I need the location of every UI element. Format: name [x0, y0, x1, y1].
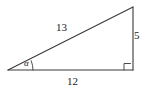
right-angle-icon — [124, 64, 131, 71]
opposite-side-label: 5 — [134, 30, 140, 41]
angle-alpha-label: α — [24, 59, 29, 68]
angle-arc-icon — [31, 61, 33, 70]
triangle-figure: 13 5 12 α — [0, 0, 150, 94]
adjacent-side-label: 12 — [67, 76, 78, 87]
hypotenuse-label: 13 — [56, 22, 67, 33]
